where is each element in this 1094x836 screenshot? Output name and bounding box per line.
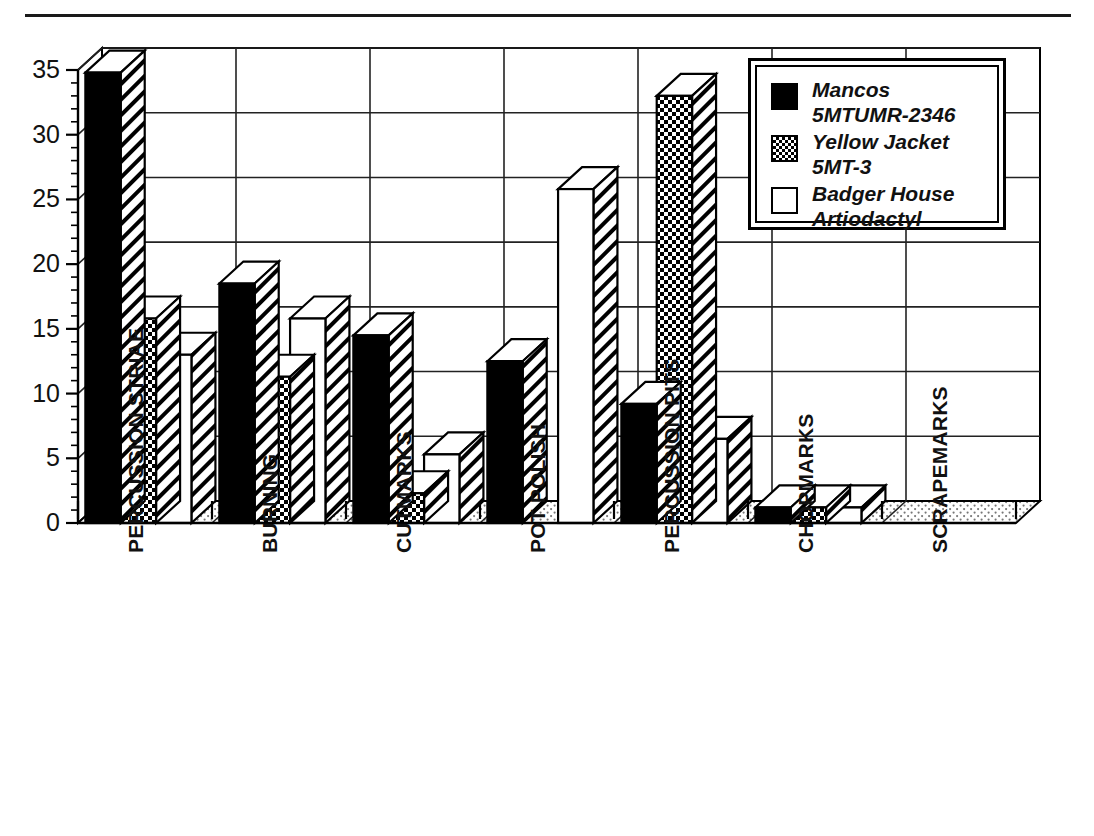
legend-label: Yellow Jacket 5MT-3: [812, 129, 989, 179]
bar-chopmarks-s1-front: [755, 507, 790, 523]
x-label-percussion-pits: PERCUSSION PITS: [660, 359, 684, 553]
y-tick-label-10: 10: [12, 381, 60, 406]
bar-cutmarks-s1-front: [353, 335, 388, 523]
legend-item-1: Mancos 5MTUMR-2346: [771, 77, 989, 127]
bar-pot-polish-s3-side: [593, 167, 617, 523]
bar-percussion-pits-s2-side: [692, 74, 716, 523]
bar-burning-s3-side: [325, 297, 349, 523]
bar-pot-polish-s3-front: [558, 189, 593, 523]
bar-pot-polish-s1-front: [487, 361, 522, 523]
y-tick-label-20: 20: [12, 251, 60, 276]
legend-item-3: Badger House Artiodactyl: [771, 181, 989, 231]
x-label-chopmarks: CHOPMARKS: [794, 414, 818, 553]
legend-label: Badger House Artiodactyl: [812, 181, 989, 231]
y-tick-label-25: 25: [12, 186, 60, 211]
legend-swatch-dotted-checker: [771, 135, 798, 162]
y-tick-label-35: 35: [12, 57, 60, 82]
bar-percussion-striae-s1-front: [85, 73, 120, 523]
legend-swatch-white: [771, 187, 798, 214]
figure-page: 35302520151050 PERCUSSION STRIAEBURNINGC…: [0, 0, 1094, 836]
x-label-pot-polish: POT POLISH: [526, 424, 550, 553]
bar-percussion-striae-s2-side: [156, 297, 180, 523]
y-tick-label-15: 15: [12, 316, 60, 341]
legend-item-2: Yellow Jacket 5MT-3: [771, 129, 989, 179]
bar-percussion-pits-s1-front: [621, 404, 656, 523]
y-tick-label-5: 5: [12, 445, 60, 470]
y-tick-label-30: 30: [12, 122, 60, 147]
bar-burning-s1-front: [219, 284, 254, 523]
x-label-scrapemarks: SCRAPEMARKS: [928, 386, 952, 553]
legend-inner-frame: Mancos 5MTUMR-2346Yellow Jacket 5MT-3Bad…: [755, 65, 999, 223]
x-label-cutmarks: CUTMARKS: [392, 431, 416, 553]
chart-legend: Mancos 5MTUMR-2346Yellow Jacket 5MT-3Bad…: [748, 58, 1006, 230]
bar-percussion-striae-s3-side: [191, 333, 215, 523]
x-label-percussion-striae: PERCUSSION STRIAE: [124, 328, 148, 553]
bar-burning-s2-side: [290, 355, 314, 523]
x-label-burning: BURNING: [258, 454, 282, 553]
legend-label: Mancos 5MTUMR-2346: [812, 77, 989, 127]
y-tick-label-0: 0: [12, 510, 60, 535]
legend-swatch-solid-black: [771, 83, 798, 110]
